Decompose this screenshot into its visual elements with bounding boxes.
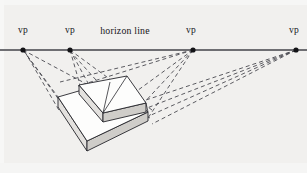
construction-line-vp4-b: [147, 50, 296, 108]
construction-line-vp4-c: [149, 50, 296, 116]
construction-line-vp2-b: [70, 50, 88, 83]
construction-line-vp1-c: [25, 52, 60, 112]
construction-line-vp3-e: [148, 50, 193, 118]
stepped-wedge-solid: [58, 76, 148, 151]
vp-label-4: vp: [289, 26, 299, 36]
vp-label-2: vp: [65, 26, 75, 36]
construction-line-vp4-d: [152, 50, 296, 124]
construction-line-vp4-a: [146, 50, 296, 100]
vanishing-point-dot-3[interactable]: [190, 47, 195, 52]
construction-line-vp2-a: [70, 50, 80, 85]
vanishing-point-dot-2[interactable]: [67, 47, 72, 52]
construction-line-vp3-d: [140, 50, 193, 107]
vp-label-1: vp: [18, 26, 28, 36]
vanishing-point-dot-4[interactable]: [293, 47, 298, 52]
construction-line-vp1-b: [23, 50, 58, 97]
construction-line-vp3-c: [130, 50, 193, 96]
horizon-line-label: horizon line: [100, 26, 149, 36]
perspective-diagram-svg: [0, 0, 307, 173]
vanishing-point-dot-1[interactable]: [20, 47, 25, 52]
vp-label-3: vp: [186, 26, 196, 36]
construction-line-vp2-c: [70, 51, 96, 80]
figure-canvas: vp vp horizon line vp vp: [0, 0, 307, 173]
